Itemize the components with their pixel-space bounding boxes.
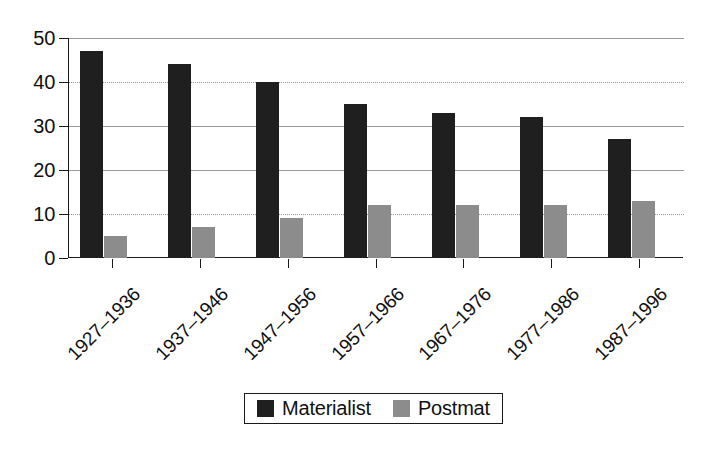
- y-tick-mark-10: [59, 214, 68, 215]
- x-tick-mark: [463, 259, 464, 268]
- x-tick-label: 1927–1936: [64, 284, 144, 364]
- bar-postmat-1937–1946: [192, 227, 215, 258]
- x-tick-label: 1977–1986: [503, 284, 583, 364]
- x-tick-label: 1937–1946: [152, 284, 232, 364]
- bar-group: [168, 38, 215, 258]
- bar-postmat-1957–1966: [368, 205, 391, 258]
- y-tick-label: 20: [11, 160, 55, 180]
- bar-postmat-1947–1956: [280, 218, 303, 258]
- y-tick-label: 0: [11, 248, 55, 268]
- x-tick-mark: [200, 259, 201, 268]
- bar-postmat-1967–1976: [456, 205, 479, 258]
- y-tick-label: 40: [11, 72, 55, 92]
- y-tick-label: 30: [11, 116, 55, 136]
- legend-entry-materialist: Materialist: [257, 398, 371, 418]
- x-tick-label: 1947–1956: [240, 284, 320, 364]
- legend-label: Materialist: [282, 398, 371, 418]
- x-tick-mark: [551, 259, 552, 268]
- y-tick-mark-0: [59, 258, 68, 259]
- bar-group: [344, 38, 391, 258]
- bar-materialist-1987–1996: [608, 139, 631, 258]
- bar-materialist-1927–1936: [80, 51, 103, 258]
- legend-label: Postmat: [418, 398, 490, 418]
- x-tick-label: 1987–1996: [591, 284, 671, 364]
- bar-group: [256, 38, 303, 258]
- bar-materialist-1967–1976: [432, 113, 455, 258]
- bar-postmat-1987–1996: [632, 201, 655, 258]
- y-tick-mark-50: [59, 38, 68, 39]
- bar-materialist-1937–1946: [168, 64, 191, 258]
- bar-materialist-1977–1986: [520, 117, 543, 258]
- legend-swatch-postmat-icon: [393, 400, 410, 417]
- bar-group: [608, 38, 655, 258]
- bar-group: [520, 38, 567, 258]
- y-tick-label: 10: [11, 204, 55, 224]
- chart-legend: MaterialistPostmat: [244, 393, 503, 424]
- y-tick-mark-20: [59, 170, 68, 171]
- y-tick-label: 50: [11, 28, 55, 48]
- x-tick-label: 1967–1976: [415, 284, 495, 364]
- legend-entry-postmat: Postmat: [393, 398, 490, 418]
- y-tick-mark-30: [59, 126, 68, 127]
- bar-chart: 01020304050 1927–19361937–19461947–19561…: [0, 0, 708, 450]
- bar-group: [80, 38, 127, 258]
- bar-materialist-1947–1956: [256, 82, 279, 258]
- bar-materialist-1957–1966: [344, 104, 367, 258]
- bar-postmat-1927–1936: [104, 236, 127, 258]
- x-tick-mark: [376, 259, 377, 268]
- x-tick-mark: [112, 259, 113, 268]
- x-tick-mark: [639, 259, 640, 268]
- bar-postmat-1977–1986: [544, 205, 567, 258]
- x-tick-label: 1957–1966: [328, 284, 408, 364]
- bar-group: [432, 38, 479, 258]
- legend-swatch-materialist-icon: [257, 400, 274, 417]
- y-tick-mark-40: [59, 82, 68, 83]
- x-tick-mark: [288, 259, 289, 268]
